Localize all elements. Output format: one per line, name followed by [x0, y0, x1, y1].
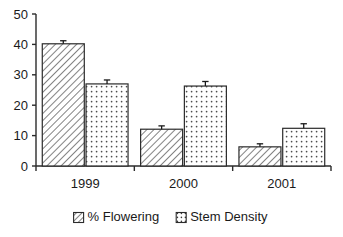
hatch-swatch-icon — [74, 213, 84, 223]
legend-label: % Flowering — [88, 209, 160, 224]
legend-item: Stem Density — [176, 209, 268, 224]
x-category-label: 2000 — [169, 176, 198, 191]
bar — [184, 86, 226, 166]
y-tick-label: 0 — [21, 159, 28, 174]
bar — [283, 128, 325, 166]
y-tick-label: 50 — [14, 7, 28, 22]
y-tick-label: 30 — [14, 67, 28, 82]
x-category-label: 2001 — [267, 176, 296, 191]
bar — [141, 129, 183, 166]
dot-swatch-icon — [176, 213, 186, 223]
y-tick-label: 10 — [14, 128, 28, 143]
y-tick-label: 40 — [14, 37, 28, 52]
bar — [239, 147, 281, 166]
bar — [42, 44, 84, 166]
bar — [86, 84, 128, 166]
legend-label: Stem Density — [190, 209, 268, 224]
bar-chart: 01020304050 199920002001 % FloweringStem… — [0, 0, 343, 237]
chart-canvas: 01020304050 199920002001 % FloweringStem… — [0, 0, 343, 237]
y-tick-label: 20 — [14, 98, 28, 113]
x-category-label: 1999 — [71, 176, 100, 191]
